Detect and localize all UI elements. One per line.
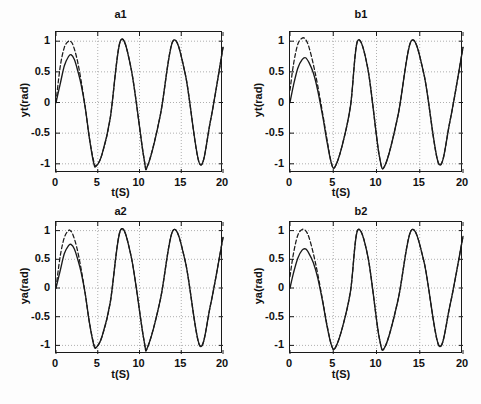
ytick-label: 1 <box>241 34 284 46</box>
yaxis-label-a2: ya(rad) <box>18 256 30 316</box>
ytick-label: 1 <box>241 224 284 236</box>
plot-area-a1 <box>56 32 223 173</box>
yaxis-label-a1: yt(rad) <box>18 70 30 130</box>
axes-box-b1 <box>289 31 462 172</box>
plot-area-a2 <box>56 222 223 354</box>
ytick-label: -1 <box>241 338 284 350</box>
axes-box-a2 <box>55 221 222 353</box>
subplot-title-a2: a2 <box>0 205 241 217</box>
ytick-label: -1 <box>0 157 50 169</box>
subplot-title-a1: a1 <box>0 8 241 20</box>
subplot-title-b2: b2 <box>241 205 481 217</box>
ytick-label: 1 <box>0 224 50 236</box>
yaxis-label-b2: ya(rad) <box>252 256 264 316</box>
xaxis-label-b2: t(S) <box>221 368 461 380</box>
subplot-b2: b2 -1-0.500.51 05101520 t(S) ya(rad) <box>241 200 481 404</box>
subplot-a1: a1 -1-0.500.51 05101520 t(S) yt(rad) <box>0 0 241 202</box>
ytick-label: -1 <box>241 157 284 169</box>
ytick-label: 1 <box>0 34 50 46</box>
series-reference-b2 <box>290 229 463 350</box>
figure-canvas: a1 -1-0.500.51 05101520 t(S) yt(rad) b1 … <box>0 0 481 404</box>
yaxis-label-b1: yt(rad) <box>252 70 264 130</box>
ytick-label: -1 <box>0 338 50 350</box>
subplot-title-b1: b1 <box>241 8 481 20</box>
xaxis-label-a1: t(S) <box>0 186 241 198</box>
xaxis-label-b1: t(S) <box>221 186 461 198</box>
axes-box-a1 <box>55 31 222 172</box>
axes-box-b2 <box>289 221 462 353</box>
series-output-b2 <box>290 229 463 350</box>
plot-area-b1 <box>290 32 463 173</box>
subplot-b1: b1 -1-0.500.51 05101520 t(S) yt(rad) <box>241 0 481 202</box>
plot-area-b2 <box>290 222 463 354</box>
xaxis-label-a2: t(S) <box>0 368 241 380</box>
subplot-a2: a2 -1-0.500.51 05101520 t(S) ya(rad) <box>0 200 241 404</box>
